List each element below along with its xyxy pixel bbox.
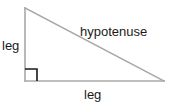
- label-leg-vertical: leg: [2, 39, 19, 52]
- label-hypotenuse: hypotenuse: [80, 25, 147, 38]
- right-angle-marker-icon: [25, 69, 37, 81]
- triangle-hypotenuse-line: [25, 8, 164, 81]
- right-triangle-diagram: leg leg hypotenuse: [0, 0, 169, 108]
- label-leg-horizontal: leg: [84, 88, 101, 101]
